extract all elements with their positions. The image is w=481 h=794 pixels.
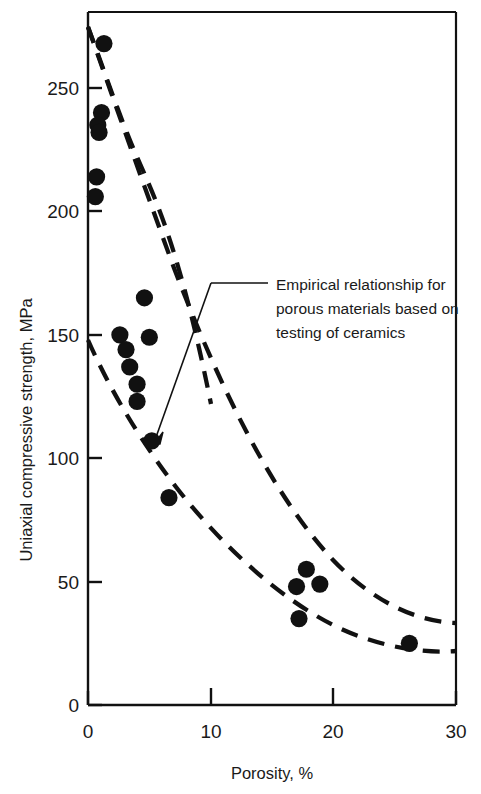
data-point xyxy=(401,635,418,652)
annotation-line-1: Empirical relationship for xyxy=(276,276,446,293)
y-tick-label-200: 200 xyxy=(47,201,79,222)
data-point xyxy=(128,376,145,393)
chart-figure: 0 50 100 150 200 250 0 10 20 30 Porosity… xyxy=(0,0,481,794)
y-tick-label-150: 150 xyxy=(47,325,79,346)
data-point xyxy=(136,289,153,306)
x-axis-title: Porosity, % xyxy=(231,764,314,782)
x-tick-label-20: 20 xyxy=(322,721,343,742)
x-tick-label-30: 30 xyxy=(445,721,466,742)
y-axis-title: Uniaxial compressive strength, MPa xyxy=(17,298,35,562)
annotation-line-3: testing of ceramics xyxy=(276,324,405,341)
x-tick-label-10: 10 xyxy=(200,721,221,742)
y-tick-label-50: 50 xyxy=(58,572,79,593)
annotation-line-2: porous materials based on xyxy=(276,300,459,317)
data-point xyxy=(90,124,107,141)
x-tick-label-0: 0 xyxy=(83,721,94,742)
data-point xyxy=(298,561,315,578)
data-point xyxy=(117,341,134,358)
data-point xyxy=(95,35,112,52)
y-tick-label-0: 0 xyxy=(68,695,79,716)
data-point xyxy=(128,393,145,410)
plot-background xyxy=(0,0,481,794)
porosity-strength-scatter-plot: 0 50 100 150 200 250 0 10 20 30 Porosity… xyxy=(0,0,481,794)
data-point xyxy=(143,432,160,449)
data-point xyxy=(311,575,328,592)
data-point xyxy=(290,610,307,627)
y-tick-label-250: 250 xyxy=(47,78,79,99)
y-tick-label-100: 100 xyxy=(47,448,79,469)
data-point xyxy=(288,578,305,595)
data-point xyxy=(121,358,138,375)
data-point xyxy=(160,489,177,506)
data-point xyxy=(111,326,128,343)
data-point xyxy=(87,188,104,205)
data-point xyxy=(141,329,158,346)
data-point xyxy=(88,168,105,185)
